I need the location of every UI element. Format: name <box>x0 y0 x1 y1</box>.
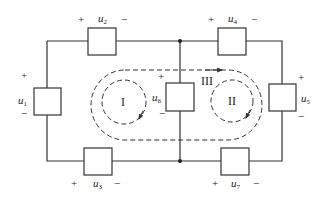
element-u4-box <box>218 28 246 55</box>
loop-I-arrow-icon <box>139 111 143 119</box>
u2-plus-sign: + <box>78 14 84 25</box>
components <box>34 28 296 175</box>
loop-II-label: II <box>228 95 236 107</box>
u3-minus-sign: − <box>114 178 120 189</box>
element-u1-box <box>34 88 61 115</box>
u3-plus-sign: + <box>71 178 77 189</box>
u4-plus-sign: + <box>208 14 214 25</box>
junction-top <box>178 39 182 43</box>
wires <box>47 41 282 161</box>
u2-minus-sign: − <box>121 14 127 25</box>
u6-minus-sign: − <box>159 108 165 119</box>
u1-minus-sign: − <box>21 108 27 119</box>
u5-minus-sign: − <box>298 111 304 122</box>
loop-II-arrow-icon <box>246 110 250 118</box>
circuit-diagram <box>0 0 326 199</box>
u7-minus-sign: − <box>253 178 259 189</box>
u5-label: u5 <box>301 93 310 106</box>
loop-III-label: III <box>201 75 213 87</box>
element-u7-box <box>221 148 249 175</box>
element-u5-box <box>269 84 296 111</box>
u5-plus-sign: + <box>298 72 304 83</box>
u7-plus-sign: + <box>212 178 218 189</box>
u2-label: u2 <box>98 13 107 26</box>
u4-label: u4 <box>228 13 237 26</box>
u3-label: u3 <box>93 178 102 191</box>
element-u3-box <box>84 148 112 175</box>
u7-label: u7 <box>231 178 240 191</box>
top-wire <box>47 41 282 84</box>
element-u6-box <box>166 83 194 111</box>
bottom-wire <box>112 111 282 161</box>
u6-label: u6 <box>152 92 161 105</box>
u1-plus-sign: + <box>21 70 27 81</box>
element-u2-box <box>88 28 116 55</box>
u6-plus-sign: + <box>158 71 164 82</box>
u4-minus-sign: − <box>251 14 257 25</box>
loop-I-label: I <box>121 96 125 108</box>
junction-bottom <box>178 159 182 163</box>
